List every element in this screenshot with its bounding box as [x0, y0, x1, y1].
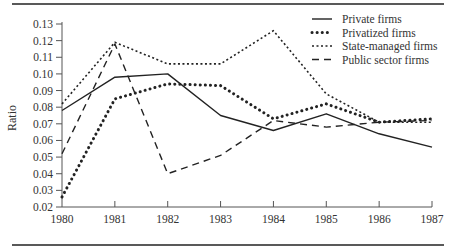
- y-tick-label: 0.06: [33, 134, 53, 146]
- x-tick-label: 1980: [51, 213, 74, 225]
- series-line-privatized-firms: [62, 84, 432, 197]
- x-tick-label: 1986: [368, 213, 391, 225]
- y-tick-label: 0.05: [33, 151, 53, 163]
- line-chart: 0.020.030.040.050.060.070.080.090.100.11…: [0, 0, 454, 252]
- y-tick-label: 0.12: [33, 35, 53, 47]
- y-tick-label: 0.02: [33, 201, 53, 213]
- x-tick-label: 1981: [103, 213, 126, 225]
- legend-label: State-managed firms: [342, 40, 438, 53]
- y-tick-label: 0.03: [33, 184, 53, 196]
- chart-canvas: 0.020.030.040.050.060.070.080.090.100.11…: [0, 0, 454, 252]
- x-axis: 19801981198219831984198519861987: [51, 201, 444, 225]
- x-tick-label: 1983: [209, 213, 232, 225]
- legend-label: Privatized firms: [342, 27, 416, 39]
- x-tick-label: 1982: [156, 213, 179, 225]
- x-tick-label: 1985: [315, 213, 338, 225]
- y-tick-label: 0.04: [33, 168, 53, 180]
- x-tick-label: 1987: [421, 213, 444, 225]
- series-line-private-firms: [62, 74, 432, 147]
- y-axis-label: Ratio: [5, 105, 19, 131]
- x-tick-label: 1984: [262, 213, 285, 225]
- y-tick-label: 0.09: [33, 85, 53, 97]
- legend-label: Private firms: [342, 13, 402, 25]
- y-tick-label: 0.13: [33, 18, 53, 30]
- legend: Private firmsPrivatized firmsState-manag…: [312, 13, 438, 66]
- y-tick-label: 0.10: [33, 68, 53, 80]
- y-tick-label: 0.07: [33, 118, 53, 130]
- y-tick-label: 0.11: [33, 51, 53, 63]
- y-tick-label: 0.08: [33, 101, 53, 113]
- y-axis: 0.020.030.040.050.060.070.080.090.100.11…: [33, 18, 62, 213]
- legend-label: Public sector firms: [342, 54, 429, 66]
